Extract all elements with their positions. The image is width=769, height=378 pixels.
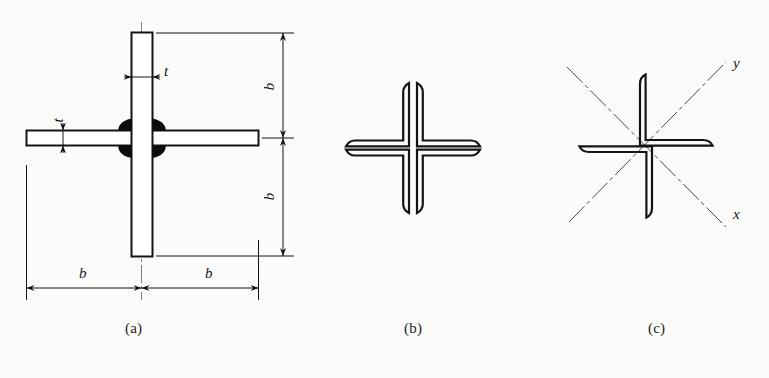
panel-caption-a: (a) <box>125 320 142 337</box>
axis-label-y: y <box>733 55 740 72</box>
dim-label-b-upper: b <box>261 83 278 91</box>
panel-caption-b: (b) <box>404 320 422 337</box>
panel-caption-c: (c) <box>648 320 665 337</box>
dim-label-b-right: b <box>205 265 213 282</box>
dim-label-b-left: b <box>79 265 87 282</box>
figure-container: t t b b b b y x (a) (b) (c) <box>0 0 769 378</box>
panel-c-drawing <box>567 62 726 227</box>
dim-label-t-vertical: t <box>164 63 168 80</box>
panel-b-drawing <box>346 83 480 213</box>
dim-label-t-horizontal: t <box>50 118 67 122</box>
panel-a-drawing <box>27 22 295 300</box>
dim-label-b-lower: b <box>261 193 278 201</box>
axis-label-x: x <box>733 206 740 223</box>
panel-a-vertical-plate <box>132 33 153 257</box>
